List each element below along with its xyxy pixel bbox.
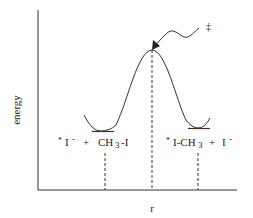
y-axis-label: energy <box>10 95 22 125</box>
reactants-plus: + <box>83 136 89 148</box>
transition-state-marker: ‡ <box>206 21 211 32</box>
transition-state-arrow <box>155 28 199 46</box>
reactants-methyl-subscript: 3 <box>115 140 120 150</box>
energy-profile-diagram: ‡ energy r * I - + CH 3 -I * I-CH 3 + I … <box>0 0 253 218</box>
energy-curve <box>84 50 210 131</box>
products-plus: + <box>209 136 215 148</box>
reactants-charge: - <box>72 134 75 144</box>
products-label: * I-CH 3 + I - <box>166 134 232 150</box>
reactants-methyl: CH <box>98 136 113 148</box>
reactants-star: * <box>58 136 62 145</box>
products-iodide: I <box>222 136 226 148</box>
reactants-label: * I - + CH 3 -I <box>58 134 129 150</box>
reactants-iodide: I <box>65 136 69 148</box>
reactants-iodine: -I <box>121 136 129 148</box>
products-charge: - <box>229 134 232 144</box>
products-star: * <box>166 136 170 145</box>
products-methyl-iodide: I-CH <box>173 136 196 148</box>
products-methyl-subscript: 3 <box>198 140 203 150</box>
x-axis-label: r <box>150 202 154 214</box>
